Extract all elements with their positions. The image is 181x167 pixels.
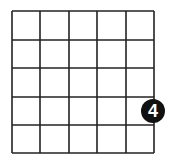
clue-markers: 4: [141, 99, 165, 123]
puzzle-grid: 4: [0, 0, 181, 167]
grid-lines: [12, 11, 154, 153]
clue-number: 4: [148, 101, 158, 121]
clue-badge: 4: [141, 99, 165, 123]
